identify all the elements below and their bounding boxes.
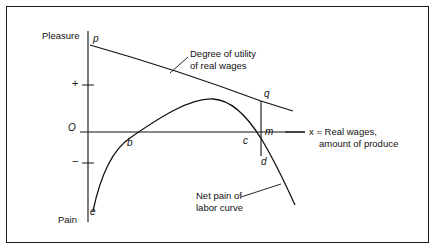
x-axis-title-line-1: x = Real wages, bbox=[309, 126, 377, 137]
x-axis-title-line-2: amount of produce bbox=[319, 138, 398, 149]
point-label-p: p bbox=[93, 33, 99, 45]
point-label-d: d bbox=[261, 156, 267, 168]
axis-label-pleasure: Pleasure bbox=[42, 30, 80, 41]
pain-annotation-line-1: Net pain of bbox=[196, 190, 242, 201]
utility-annotation-line-1: Degree of utility bbox=[190, 48, 256, 59]
point-label-q: q bbox=[264, 88, 270, 100]
utility-annotation-line-2: of real wages bbox=[190, 60, 247, 71]
point-label-m: m bbox=[265, 126, 273, 138]
point-label-e: e bbox=[90, 206, 96, 218]
point-label-b: b bbox=[127, 137, 133, 149]
pain-annotation-line-2: labor curve bbox=[196, 202, 243, 213]
negative-sign-label: − bbox=[72, 155, 78, 168]
point-label-c: c bbox=[243, 135, 248, 147]
positive-sign-label: + bbox=[72, 77, 78, 90]
axis-label-pain: Pain bbox=[58, 214, 77, 225]
origin-label: O bbox=[68, 122, 76, 134]
figure-container: Pleasure Pain O + − x = Real wages, amou… bbox=[0, 0, 436, 250]
